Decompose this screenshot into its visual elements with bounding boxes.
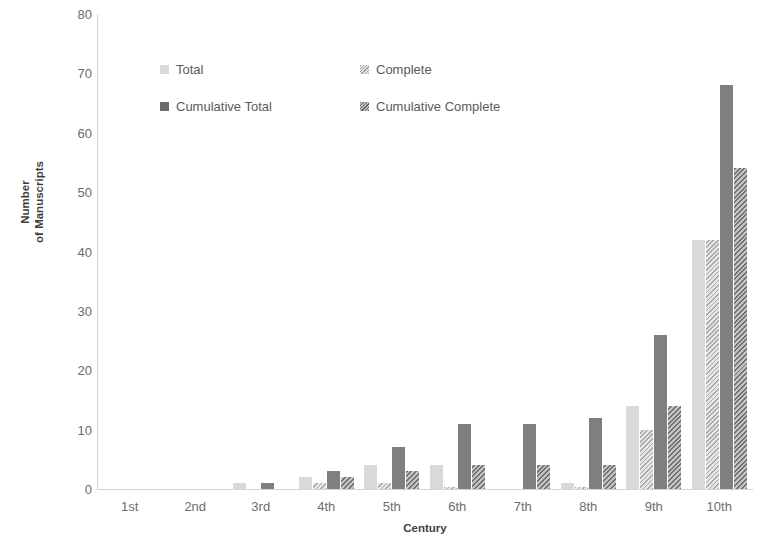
x-axis-tick-label: 6th: [425, 500, 491, 513]
x-axis-tick-labels: 1st2nd3rd4th5th6th7th8th9th10th: [97, 500, 753, 520]
bar-total-10th: [692, 240, 705, 489]
x-axis-tick-label: 7th: [490, 500, 556, 513]
x-axis-tick-label: 8th: [556, 500, 622, 513]
bar-total-4th: [299, 477, 312, 489]
bar-cumulative_total-9th: [654, 335, 667, 489]
legend-entry-cumulative-total: Cumulative Total: [160, 99, 360, 114]
y-axis-title: Number of Manuscripts: [12, 122, 52, 282]
bar-chart: Number of Manuscripts 01020304050607080 …: [0, 0, 761, 541]
bar-cumulative_complete-6th: [472, 465, 485, 489]
y-axis-title-line-1: Number: [18, 180, 32, 223]
y-axis-tick-label: 0: [56, 483, 92, 496]
legend-swatch-icon: [160, 65, 169, 74]
legend-label: Total: [176, 62, 203, 77]
bar-total-9th: [626, 406, 639, 489]
bar-total-8th: [561, 483, 574, 489]
bar-cumulative_complete-8th: [603, 465, 616, 489]
y-axis-tick-label: 30: [56, 305, 92, 318]
x-axis-tick-label: 10th: [687, 500, 753, 513]
x-axis-line: [97, 489, 753, 490]
bar-cumulative_complete-5th: [406, 471, 419, 489]
y-axis-tick-label: 40: [56, 246, 92, 259]
bar-complete-8th: [575, 487, 588, 489]
x-axis-tick-label: 9th: [621, 500, 687, 513]
bar-cumulative_total-3rd: [261, 483, 274, 489]
legend-label: Cumulative Total: [176, 99, 272, 114]
x-axis-tick-label: 5th: [359, 500, 425, 513]
y-axis-tick-label: 10: [56, 424, 92, 437]
bar-cumulative_complete-10th: [734, 168, 747, 489]
bar-cumulative_total-7th: [523, 424, 536, 489]
bar-total-5th: [364, 465, 377, 489]
bar-cumulative_total-10th: [720, 85, 733, 489]
bar-total-3rd: [233, 483, 246, 489]
bar-cumulative_complete-4th: [341, 477, 354, 489]
y-axis-tick-label: 70: [56, 67, 92, 80]
y-axis-tick-labels: 01020304050607080: [50, 0, 92, 541]
bar-complete-6th: [444, 487, 457, 489]
legend-entry-total: Total: [160, 62, 360, 77]
bar-cumulative_complete-9th: [668, 406, 681, 489]
y-axis-tick-label: 20: [56, 364, 92, 377]
legend-label: Cumulative Complete: [376, 99, 500, 114]
bar-cumulative_complete-7th: [537, 465, 550, 489]
bar-group: [621, 14, 687, 489]
bar-cumulative_total-5th: [392, 447, 405, 489]
x-axis-tick-label: 1st: [97, 500, 163, 513]
legend-entry-complete: Complete: [360, 62, 560, 77]
legend-swatch-icon: [360, 102, 369, 111]
y-axis-tick-label: 50: [56, 186, 92, 199]
x-axis-tick-label: 2nd: [163, 500, 229, 513]
bar-complete-5th: [378, 483, 391, 489]
y-axis-tick-label: 80: [56, 8, 92, 21]
bar-cumulative_total-6th: [458, 424, 471, 489]
bar-cumulative_total-8th: [589, 418, 602, 489]
x-axis-tick-label: 4th: [294, 500, 360, 513]
x-axis-title: Century: [97, 522, 753, 534]
y-axis-title-line-2: of Manuscripts: [32, 161, 46, 243]
bar-complete-10th: [706, 240, 719, 489]
legend-swatch-icon: [160, 102, 169, 111]
legend-label: Complete: [376, 62, 432, 77]
bar-total-6th: [430, 465, 443, 489]
legend-entry-cumulative-complete: Cumulative Complete: [360, 99, 560, 114]
y-axis-tick-label: 60: [56, 127, 92, 140]
bar-group: [97, 14, 163, 489]
bar-complete-9th: [640, 430, 653, 489]
bar-complete-4th: [313, 483, 326, 489]
legend-swatch-icon: [360, 65, 369, 74]
bar-group: [556, 14, 622, 489]
bar-cumulative_total-4th: [327, 471, 340, 489]
chart-legend: TotalCompleteCumulative TotalCumulative …: [160, 62, 560, 114]
bar-group: [687, 14, 753, 489]
x-axis-tick-label: 3rd: [228, 500, 294, 513]
